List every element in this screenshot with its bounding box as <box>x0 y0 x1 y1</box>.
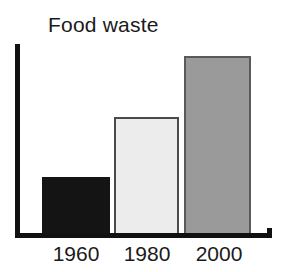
bar-1960 <box>42 177 110 238</box>
y-axis-line <box>15 44 20 238</box>
bar-2000 <box>184 56 251 238</box>
x-axis-end-tick <box>267 228 272 238</box>
bar-chart: Food waste 1960 1980 2000 <box>0 0 300 272</box>
bar-1980 <box>114 117 179 238</box>
x-tick-label-1980: 1980 <box>110 241 184 267</box>
plot-area <box>0 0 300 272</box>
x-axis-line <box>15 233 272 238</box>
x-tick-label-2000: 2000 <box>181 241 257 267</box>
x-tick-label-1960: 1960 <box>38 241 114 267</box>
